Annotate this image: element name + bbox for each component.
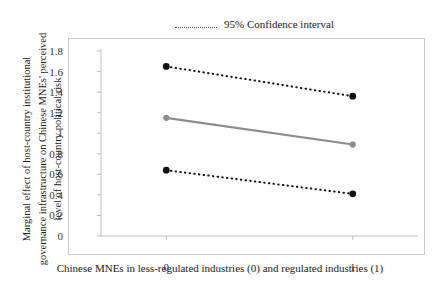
y-tick-label: 0.8 — [49, 148, 69, 160]
x-axis-caption: Chinese MNEs in less-regulated industrie… — [0, 262, 440, 274]
y-axis-title-line-1: Marginal effect of host-country institut… — [19, 33, 35, 266]
chart-root: Marginal effect of host-country institut… — [0, 0, 440, 295]
series-line-0 — [166, 66, 352, 96]
y-axis-title-line-2: governance infrastructure on Chinese MNE… — [34, 33, 50, 266]
series-line-2 — [166, 170, 352, 194]
y-tick-label: 1.2 — [49, 107, 69, 119]
y-tick-label: 1.8 — [49, 45, 69, 57]
y-tick-label: 0 — [58, 230, 70, 242]
y-tick-label: 0.4 — [49, 189, 69, 201]
series-line-1 — [166, 118, 352, 145]
chart-frame: 00.20.40.60.811.21.41.61.801 — [68, 38, 425, 255]
legend-item-label: 95% Confidence interval — [224, 18, 334, 30]
series-marker-2 — [163, 167, 170, 174]
y-tick-label: 1.4 — [49, 86, 69, 98]
legend-dotted-line-icon — [175, 27, 217, 28]
series-marker-1 — [350, 141, 356, 147]
y-tick-label: 1 — [58, 127, 70, 139]
plot-canvas — [69, 39, 424, 254]
plot-area: 00.20.40.60.811.21.41.61.801 — [69, 39, 424, 254]
y-tick-label: 0.2 — [49, 209, 69, 221]
series-marker-0 — [349, 93, 356, 100]
y-tick-label: 1.6 — [49, 66, 69, 78]
series-marker-2 — [349, 190, 356, 197]
y-tick-label: 0.6 — [49, 168, 69, 180]
series-marker-0 — [163, 63, 170, 70]
series-marker-1 — [163, 115, 169, 121]
chart-legend: 95% Confidence interval — [175, 18, 334, 30]
